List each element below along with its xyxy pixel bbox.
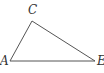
vertex-label-e: E [96,54,104,68]
vertex-label-c: C [28,3,37,17]
triangle-diagram: C A E [0,0,104,73]
triangle-ace [10,21,95,61]
vertex-label-a: A [0,54,9,68]
